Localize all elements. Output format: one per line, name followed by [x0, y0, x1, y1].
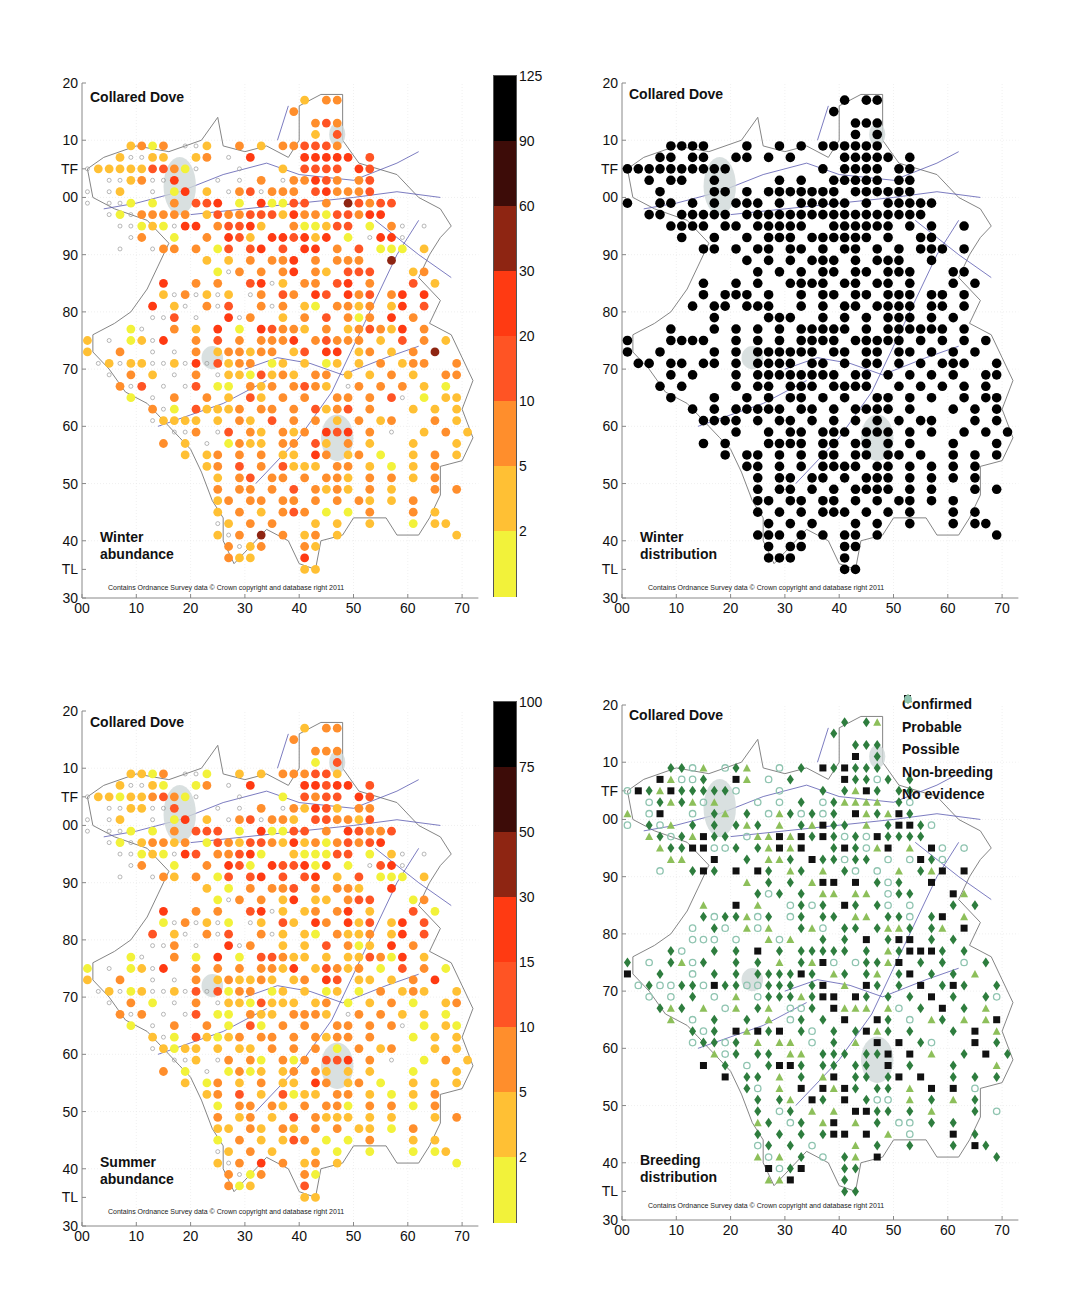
y-tick-label: 00 [602, 189, 618, 205]
x-tick-label: 30 [237, 600, 253, 616]
legend-item: Possible [902, 738, 993, 761]
legend-item: Non-breeding [902, 761, 993, 784]
x-tick-label: 70 [994, 1222, 1010, 1238]
y-tick-label: 90 [602, 247, 618, 263]
x-tick-label: 20 [723, 600, 739, 616]
y-tick-label: 40 [62, 1161, 78, 1177]
colorbar-segment [494, 767, 516, 833]
colorbar-label: 5 [519, 1084, 527, 1100]
colorbar-label: 125 [519, 68, 542, 84]
map-subtitle: Summer abundance [100, 1154, 174, 1188]
colorbar-label: 5 [519, 458, 527, 474]
y-tick-label: 70 [602, 983, 618, 999]
y-tick-label: 70 [602, 361, 618, 377]
y-tick-label: 50 [602, 1098, 618, 1114]
x-tick-label: 30 [777, 600, 793, 616]
map-subtitle: Winter distribution [640, 529, 717, 563]
legend-label: Possible [902, 738, 960, 761]
y-tick-label: 50 [62, 476, 78, 492]
colorbar-label: 2 [519, 523, 527, 539]
x-tick-label: 20 [183, 1228, 199, 1244]
y-tick-label: 10 [62, 132, 78, 148]
map-subtitle: Breeding distribution [640, 1152, 717, 1186]
colorbar-segment [494, 1027, 516, 1093]
y-tick-label: TL [602, 1183, 619, 1199]
abundance-colorbar: 125906030201052 [493, 75, 517, 597]
colorbar-label: 75 [519, 759, 535, 775]
x-tick-label: 10 [129, 1228, 145, 1244]
y-tick-label: 60 [602, 418, 618, 434]
map-title: Collared Dove [629, 86, 723, 102]
x-tick-label: 10 [669, 1222, 685, 1238]
x-tick-label: 30 [777, 1222, 793, 1238]
colorbar-segment [494, 1157, 516, 1223]
ring-icon [902, 693, 914, 705]
x-tick-label: 00 [614, 600, 630, 616]
map-plot: 2010TF00908070605040TL300010203040506070 [540, 60, 1068, 630]
x-tick-label: 50 [346, 1228, 362, 1244]
y-tick-label: TF [601, 783, 618, 799]
subtitle-line2: abundance [100, 1171, 174, 1188]
y-tick-label: 00 [62, 817, 78, 833]
y-tick-label: 40 [602, 1155, 618, 1171]
subtitle-line2: distribution [640, 546, 717, 563]
x-tick-label: 50 [886, 600, 902, 616]
y-tick-label: 70 [62, 361, 78, 377]
y-tick-label: 90 [62, 875, 78, 891]
winter-abundance-map: 2010TF00908070605040TL300010203040506070… [0, 60, 560, 630]
x-tick-label: 10 [129, 600, 145, 616]
y-tick-label: 40 [62, 533, 78, 549]
y-tick-label: TF [601, 161, 618, 177]
map-title: Collared Dove [90, 89, 184, 105]
colorbar-label: 10 [519, 393, 535, 409]
colorbar-label: 15 [519, 954, 535, 970]
y-tick-label: 60 [62, 418, 78, 434]
colorbar-segment [494, 141, 516, 207]
y-tick-label: 70 [62, 989, 78, 1005]
y-tick-label: 90 [602, 869, 618, 885]
x-tick-label: 40 [831, 600, 847, 616]
colorbar-label: 30 [519, 263, 535, 279]
y-tick-label: TF [61, 161, 78, 177]
abundance-colorbar: 100755030151052 [493, 701, 517, 1223]
y-tick-label: 20 [62, 703, 78, 719]
x-tick-label: 00 [614, 1222, 630, 1238]
map-title: Collared Dove [629, 707, 723, 723]
colorbar-label: 50 [519, 824, 535, 840]
subtitle-line1: Summer [100, 1154, 174, 1171]
subtitle-line2: abundance [100, 546, 174, 563]
map-plot: 2010TF00908070605040TL300010203040506070 [0, 60, 560, 630]
map-plot: 2010TF00908070605040TL300010203040506070 [0, 688, 560, 1258]
colorbar-label: 2 [519, 1149, 527, 1165]
legend-item: No evidence [902, 783, 993, 806]
y-tick-label: 00 [602, 811, 618, 827]
copyright-credit: Contains Ordnance Survey data © Crown co… [108, 584, 344, 591]
colorbar-segment [494, 76, 516, 142]
x-tick-label: 60 [940, 1222, 956, 1238]
colorbar-label: 20 [519, 328, 535, 344]
y-tick-label: 60 [602, 1040, 618, 1056]
x-tick-label: 40 [291, 600, 307, 616]
summer-abundance-map: 2010TF00908070605040TL300010203040506070… [0, 688, 560, 1258]
x-tick-label: 70 [994, 600, 1010, 616]
colorbar-label: 30 [519, 889, 535, 905]
x-tick-label: 60 [940, 600, 956, 616]
x-tick-label: 50 [346, 600, 362, 616]
y-tick-label: 00 [62, 189, 78, 205]
copyright-credit: Contains Ordnance Survey data © Crown co… [648, 584, 884, 591]
colorbar-segment [494, 466, 516, 532]
x-tick-label: 00 [74, 600, 90, 616]
breeding-legend: ConfirmedProbablePossibleNon-breedingNo … [902, 693, 993, 806]
legend-item: Probable [902, 716, 993, 739]
y-tick-label: TL [602, 561, 619, 577]
y-tick-label: 10 [62, 760, 78, 776]
breeding-distribution-map: 2010TF00908070605040TL300010203040506070… [540, 688, 1068, 1258]
map-title: Collared Dove [90, 714, 184, 730]
x-tick-label: 70 [454, 600, 470, 616]
x-tick-label: 00 [74, 1228, 90, 1244]
y-tick-label: 20 [62, 75, 78, 91]
colorbar-label: 10 [519, 1019, 535, 1035]
y-tick-label: 90 [62, 247, 78, 263]
y-tick-label: 50 [602, 476, 618, 492]
colorbar-segment [494, 401, 516, 467]
